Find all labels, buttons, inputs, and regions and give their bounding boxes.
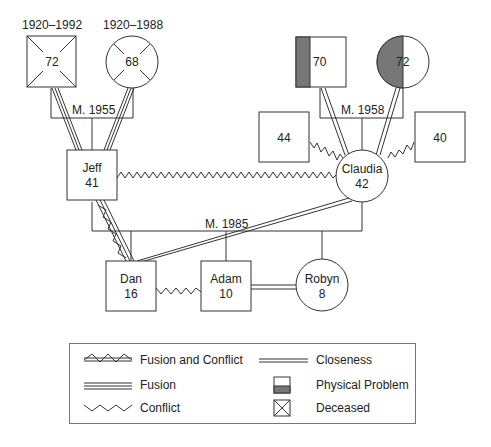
dan-name: Dan [106, 271, 156, 287]
jeff-name: Jeff [67, 160, 117, 176]
maternal-grandmother-age: 72 [396, 55, 409, 69]
fusion-lines-grandparents-jeff [52, 88, 134, 150]
dan-age: 16 [106, 286, 156, 302]
claudia-age: 42 [334, 176, 390, 192]
maternal-grandfather-age: 70 [313, 55, 326, 69]
paternal-grandmother-dates: 1920–1988 [103, 18, 163, 32]
robyn-name: Robyn [296, 271, 348, 287]
legend-deceased-label: Deceased [316, 401, 370, 415]
legend-physical-problem-label: Physical Problem [316, 378, 409, 392]
closeness-line-adam-robyn [251, 285, 296, 289]
conflict-line-dan-adam [156, 288, 201, 294]
legend-fusion-label: Fusion [140, 378, 176, 392]
marriage-label-1985: M. 1985 [205, 217, 248, 231]
adam-name: Adam [201, 271, 251, 287]
paternal-grandmother-age: 68 [106, 54, 158, 70]
jeff-age: 41 [67, 175, 117, 191]
legend-fusion-conflict-label: Fusion and Conflict [140, 353, 243, 367]
paternal-grandfather-dates: 1920–1992 [22, 18, 82, 32]
legend-closeness-label: Closeness [316, 353, 372, 367]
conflict-line-jeff-claudia [117, 172, 337, 178]
marriage-label-1958: M. 1958 [341, 103, 384, 117]
robyn-age: 8 [296, 286, 348, 302]
paternal-grandfather-age: 72 [27, 54, 77, 70]
legend-conflict-label: Conflict [140, 401, 180, 415]
adam-age: 10 [201, 286, 251, 302]
conflict-line-sibling40-claudia [388, 142, 414, 158]
marriage-label-1955: M. 1955 [72, 103, 115, 117]
conflict-line-sibling44-claudia [310, 142, 343, 160]
closeness-lines-grandparents-claudia [321, 88, 400, 155]
claudia-name: Claudia [334, 161, 390, 177]
sibling-44-age: 44 [259, 130, 309, 146]
sibling-40-age: 40 [415, 130, 465, 146]
